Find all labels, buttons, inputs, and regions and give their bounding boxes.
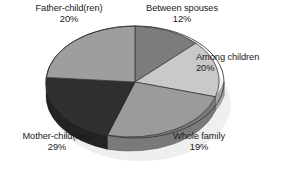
slice-label-between-spouses: Between spouses 12% [130,3,234,26]
slice-label-mother-children-name: Mother-child(ren) [2,131,112,142]
pie-chart-figure: Father-child(ren) 20% Between spouses 12… [0,0,293,171]
slice-label-father-children-value: 20% [17,14,121,25]
slice-label-whole-family-name: Whole family [154,131,244,142]
slice-label-whole-family-value: 19% [154,142,244,153]
slice-label-among-children-name: Among children [196,52,292,63]
slice-label-between-spouses-name: Between spouses [130,3,234,14]
slice-label-father-children-name: Father-child(ren) [17,3,121,14]
figure-caption [6,163,291,171]
slice-label-among-children-value: 20% [196,63,292,74]
slice-father-children[interactable] [46,26,135,82]
slice-label-father-children: Father-child(ren) 20% [17,3,121,26]
slice-label-between-spouses-value: 12% [130,14,234,25]
slice-label-whole-family: Whole family 19% [154,131,244,154]
slice-label-among-children: Among children 20% [196,52,292,75]
slice-label-mother-children: Mother-child(ren) 29% [2,131,112,154]
slice-label-mother-children-value: 29% [2,142,112,153]
